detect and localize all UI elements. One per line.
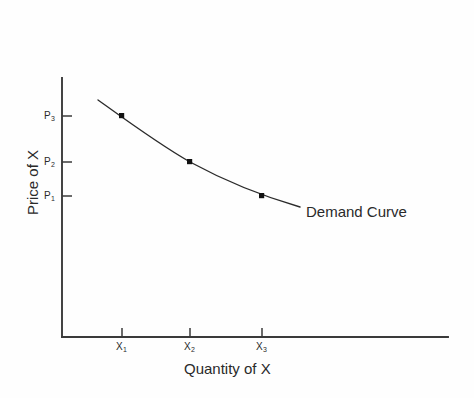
- demand-curve-label: Demand Curve: [306, 203, 407, 220]
- demand-curve-figure: P3 P2 P1 X1 X2 X3 Price of X Quantity of…: [0, 0, 474, 398]
- y-tick-label-p3-sub: 3: [51, 115, 55, 122]
- y-tick-label-p1-sub: 1: [51, 195, 55, 202]
- x-tick-label-x3: X3: [256, 341, 267, 352]
- data-point-x2-p2: [187, 159, 192, 164]
- plot-canvas: [0, 0, 474, 398]
- x-axis-title: Quantity of X: [184, 360, 271, 377]
- y-tick-label-p1: P1: [44, 190, 55, 201]
- x-tick-label-x1: X1: [116, 341, 127, 352]
- demand-curve-path: [98, 100, 300, 207]
- y-tick-label-p2: P2: [44, 156, 55, 167]
- x-tick-label-x1-sub: 1: [123, 346, 127, 353]
- y-tick-label-p3-base: P: [44, 110, 51, 121]
- x-tick-label-x3-sub: 3: [263, 346, 267, 353]
- y-tick-label-p2-base: P: [44, 156, 51, 167]
- y-tick-label-p1-base: P: [44, 190, 51, 201]
- y-tick-label-p2-sub: 2: [51, 161, 55, 168]
- x-tick-label-x3-base: X: [256, 341, 263, 352]
- x-tick-label-x2-sub: 2: [191, 346, 195, 353]
- x-tick-label-x1-base: X: [116, 341, 123, 352]
- data-point-x3-p1: [259, 193, 264, 198]
- x-tick-label-x2-base: X: [184, 341, 191, 352]
- y-axis-title: Price of X: [24, 150, 41, 215]
- y-tick-label-p3: P3: [44, 110, 55, 121]
- data-point-x1-p3: [119, 113, 124, 118]
- x-tick-label-x2: X2: [184, 341, 195, 352]
